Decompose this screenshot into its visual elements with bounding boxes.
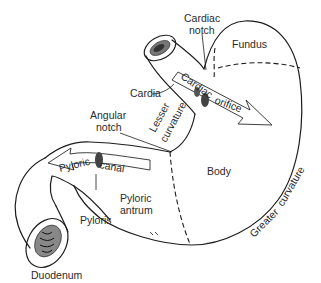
label-pyloric-antrum-1: Pyloric (120, 192, 152, 204)
labels: Cardiac notch Fundus Cardia Cardiac orif… (31, 12, 307, 281)
label-fundus: Fundus (232, 38, 267, 50)
duodenum-opening (18, 211, 77, 275)
label-cardia: Cardia (130, 87, 161, 99)
label-body: Body (207, 165, 232, 177)
label-angular-notch-1: Angular (90, 109, 127, 121)
label-cardiac-notch-1: Cardiac (184, 12, 220, 24)
label-angular-notch-2: notch (96, 121, 122, 133)
label-cardiac-orifice-2: orifice (213, 94, 244, 115)
esophagus (140, 30, 204, 114)
stomach-diagram: Cardiac notch Fundus Cardia Cardiac orif… (0, 0, 321, 283)
label-greater-curvature-2: curvature (274, 164, 306, 208)
label-cardiac-notch-2: notch (189, 24, 215, 36)
label-pyloris: Pyloris (80, 214, 112, 226)
label-pyloric-antrum-2: antrum (120, 204, 153, 216)
label-greater-curvature-1: Greater (247, 205, 281, 239)
label-duodenum: Duodenum (31, 269, 83, 281)
